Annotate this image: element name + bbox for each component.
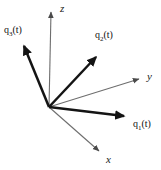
vector-q1-label-tail: (t) (142, 118, 151, 129)
vector-q3-label-tail: (t) (13, 24, 22, 35)
vector-q1-label: q1(t) (133, 119, 151, 132)
vector-q2-label-tail: (t) (104, 29, 113, 40)
vectors-group (24, 46, 124, 116)
z-axis-label: z (60, 3, 64, 14)
vector-q2-label: q2(t) (95, 30, 113, 43)
vector-diagram-figure: z y x q1(t) q2(t) q3(t) (0, 0, 161, 170)
vector-q1-line (49, 107, 124, 116)
z-axis-line (49, 12, 51, 107)
diagram-canvas (0, 0, 161, 170)
vector-q3-label: q3(t) (4, 25, 22, 38)
x-axis-line (49, 107, 99, 151)
y-axis-label: y (147, 71, 152, 82)
x-axis-label: x (106, 154, 111, 165)
axes-group (49, 12, 139, 151)
vector-q3-line (24, 46, 49, 107)
